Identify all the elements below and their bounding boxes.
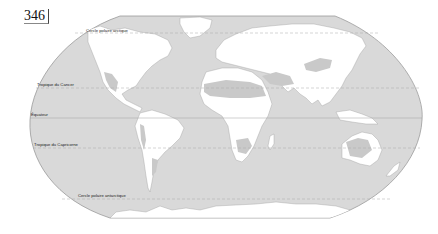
world-map: Cercle polaire arctique Tropique du Canc… <box>0 0 438 234</box>
label-antarctic-circle: Cercle polaire antarctique <box>78 193 126 198</box>
label-arctic-circle: Cercle polaire arctique <box>86 28 129 33</box>
label-tropic-of-cancer: Tropique du Cancer <box>37 82 74 87</box>
label-equator: Équateur <box>31 112 49 117</box>
label-tropic-of-capricorn: Tropique du Capricorne <box>34 142 79 147</box>
